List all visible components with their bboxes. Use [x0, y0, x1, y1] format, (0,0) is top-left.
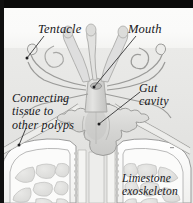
- label-limestone-exoskeleton: Limestone exoskeleton: [122, 172, 178, 198]
- tentacle-tip-center: [86, 24, 96, 36]
- label-mouth: Mouth: [128, 22, 162, 36]
- mouth-opening: [91, 83, 102, 89]
- top-border-band: [0, 0, 193, 8]
- speck-mark: [170, 147, 174, 148]
- left-border-band: [0, 0, 4, 203]
- tentacle-tip-inner-right: [118, 26, 128, 38]
- tentacle-tip-outer-right: [156, 44, 166, 55]
- tentacle-tip-outer-left: [27, 44, 37, 55]
- label-tentacle: Tentacle: [38, 22, 82, 36]
- label-connecting-tissue: Connecting tissue to other polyps: [12, 92, 74, 132]
- tentacle-hook-right: [131, 48, 149, 69]
- tentacle-hook-left: [45, 46, 63, 67]
- coral-polyp-diagram: Tentacle Mouth Gut cavity Connecting tis…: [0, 0, 193, 203]
- label-gut-cavity: Gut cavity: [139, 82, 169, 109]
- septa-ridges: [74, 150, 119, 203]
